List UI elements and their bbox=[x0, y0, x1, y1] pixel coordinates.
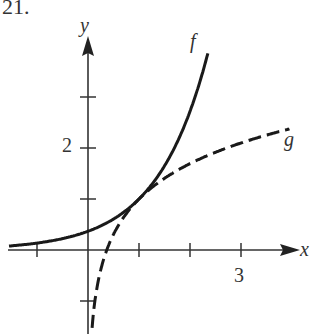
series-label-f: f bbox=[190, 30, 196, 53]
plot-area bbox=[0, 0, 311, 334]
x-axis-label: x bbox=[300, 238, 309, 261]
series-f-line bbox=[9, 53, 208, 246]
x-tick-label-3: 3 bbox=[234, 264, 244, 287]
y-axis-label: y bbox=[80, 14, 89, 37]
x-axis-arrow-icon bbox=[280, 244, 300, 256]
figure: 21. y x 2 3 f g bbox=[0, 0, 311, 334]
series-g-line bbox=[92, 129, 289, 328]
y-axis-arrow-icon bbox=[82, 36, 94, 56]
y-tick-label-2: 2 bbox=[62, 134, 72, 157]
series-label-g: g bbox=[284, 128, 294, 151]
